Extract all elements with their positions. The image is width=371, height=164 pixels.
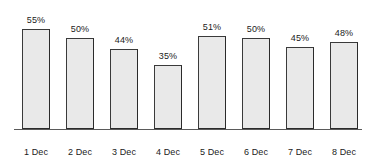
bar-group: 55% 1 Dec [14, 0, 58, 164]
bar-group: 50% 2 Dec [58, 0, 102, 164]
bar-value-label: 50% [234, 24, 278, 34]
bar-value-label: 44% [102, 35, 146, 45]
bar-group: 35% 4 Dec [146, 0, 190, 164]
bar [330, 42, 358, 129]
bar [286, 47, 314, 129]
axis-baseline [14, 129, 362, 130]
bar-category-label: 4 Dec [146, 147, 190, 158]
bar [66, 38, 94, 129]
bar [22, 29, 50, 129]
bar-group: 48% 8 Dec [322, 0, 366, 164]
bar-category-label: 5 Dec [190, 147, 234, 158]
bar-value-label: 48% [322, 28, 366, 38]
bar-value-label: 35% [146, 51, 190, 61]
bar-value-label: 50% [58, 24, 102, 34]
bar-category-label: 3 Dec [102, 147, 146, 158]
bar [198, 36, 226, 129]
bar-group: 44% 3 Dec [102, 0, 146, 164]
bar-category-label: 6 Dec [234, 147, 278, 158]
plot-area: 55% 1 Dec 50% 2 Dec 44% 3 Dec 35% 4 Dec … [0, 0, 371, 164]
bar-value-label: 55% [14, 15, 58, 25]
bar [110, 49, 138, 129]
bar-value-label: 45% [278, 33, 322, 43]
bar-category-label: 2 Dec [58, 147, 102, 158]
bar-group: 50% 6 Dec [234, 0, 278, 164]
bar-value-label: 51% [190, 22, 234, 32]
bar-chart: 55% 1 Dec 50% 2 Dec 44% 3 Dec 35% 4 Dec … [0, 0, 371, 164]
bar [154, 65, 182, 129]
bar-group: 45% 7 Dec [278, 0, 322, 164]
bar-category-label: 7 Dec [278, 147, 322, 158]
bar-category-label: 1 Dec [14, 147, 58, 158]
bar [242, 38, 270, 129]
bar-category-label: 8 Dec [322, 147, 366, 158]
bar-group: 51% 5 Dec [190, 0, 234, 164]
